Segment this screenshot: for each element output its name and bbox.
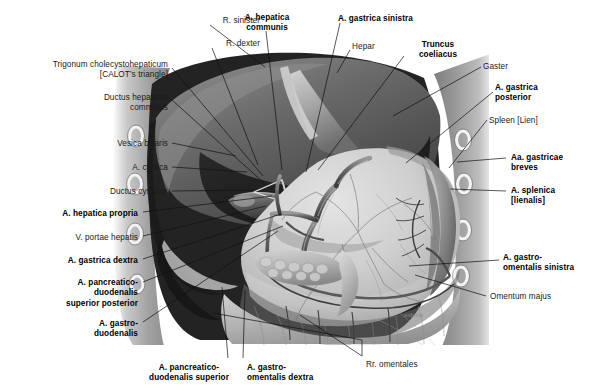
label-vesica-biliaris: Vesica biliaris (55, 139, 168, 149)
label-hepar: Hepar (352, 42, 402, 52)
label-ductus-cysticus: Ductus cysticus (45, 187, 168, 197)
label-a-gastro-omentalis-dextra: A. gastro- omentalis dextra (247, 363, 337, 384)
label-gaster: Gaster (483, 62, 531, 72)
figure-root: R. sinisterA. hepatica communisA. gastri… (0, 0, 597, 392)
label-r-dexter: R. dexter (168, 39, 260, 49)
label-a-gastrica-sinistra: A. gastrica sinistra (338, 14, 442, 24)
label-a-gastro-omentalis-sinistra: A. gastro- omentalis sinistra (503, 253, 597, 274)
label-a-cystica: A. cystica (78, 163, 168, 173)
label-a-gastrica-posterior: A. gastrica posterior (495, 83, 565, 104)
label-a-hepatica-propria: A. hepatica propria (24, 209, 138, 219)
label-a-gastroduodenalis: A. gastro- duodenalis (62, 319, 138, 340)
artist-watermark: sideba (404, 312, 423, 318)
label-truncus-coeliacus: Truncus coeliacus (406, 40, 470, 61)
label-a-splenica: A. splenica [lienalis] (511, 186, 583, 207)
label-a-gastrica-dextra: A. gastrica dextra (26, 256, 138, 266)
label-trigonum: Trigonum cholecystohepaticum [CALOT’s tr… (18, 60, 168, 81)
label-rr-omentales: Rr. omentales (366, 360, 438, 370)
label-a-pancreaticoduodenalis-sp: A. pancreatico- duodenalis superior post… (32, 278, 138, 309)
label-aa-gastricae-breves: Aa. gastricae breves (511, 153, 591, 174)
label-spleen-lien: Spleen [Lien] (489, 116, 561, 126)
label-a-pancreaticoduodenalis-superior: A. pancreatico- duodenalis superior (135, 363, 243, 384)
label-omentum-majus: Omentum majus (490, 292, 576, 302)
label-ductus-hepaticus: Ductus hepaticus communis (34, 93, 168, 114)
label-v-portae-hepatis: V. portae hepatis (38, 233, 138, 243)
label-a-hepatica-communis: A. hepatica communis (228, 13, 306, 34)
